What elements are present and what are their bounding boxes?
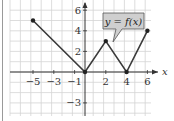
x-tick-label: −1 bbox=[67, 76, 82, 87]
y-axis-arrow-icon bbox=[83, 2, 88, 8]
y-tick-label: 6 bbox=[75, 5, 81, 16]
x-tick-label: 2 bbox=[103, 76, 109, 87]
x-axis-arrow-icon bbox=[152, 70, 158, 75]
x-tick-label: −3 bbox=[46, 76, 61, 87]
x-tick-label: −5 bbox=[26, 76, 41, 87]
function-label-callout: y = f(x) bbox=[103, 13, 144, 42]
x-tick-label: 6 bbox=[144, 76, 150, 87]
function-graph: x −5−3−1246642−3 y = f(x) bbox=[0, 0, 174, 121]
x-axis-label: x bbox=[162, 66, 168, 77]
y-tick-label: 4 bbox=[75, 25, 81, 36]
data-point bbox=[31, 18, 35, 22]
data-point bbox=[104, 39, 108, 43]
y-tick-label: 2 bbox=[75, 46, 81, 57]
y-tick-label: −3 bbox=[66, 97, 81, 108]
x-tick-label: 4 bbox=[123, 76, 129, 87]
data-point bbox=[83, 70, 87, 74]
data-point bbox=[145, 29, 149, 33]
callout-label: y = f(x) bbox=[104, 16, 143, 27]
data-point bbox=[124, 70, 128, 74]
